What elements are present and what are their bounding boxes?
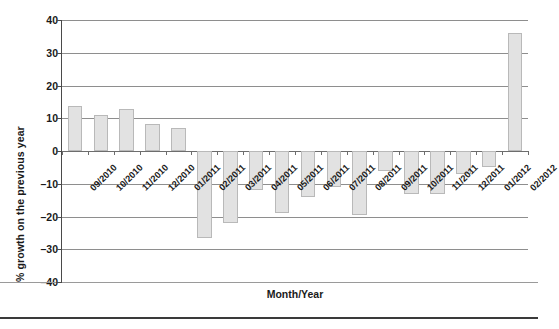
footer-divider-top: [0, 282, 538, 283]
x-axis-tickmark: [243, 151, 244, 155]
y-axis-tick-label: –20: [30, 211, 58, 223]
gridline: [62, 20, 528, 21]
bar: [171, 128, 185, 151]
y-axis-tickmark: [56, 53, 62, 54]
gridline: [62, 217, 528, 218]
y-axis-tick-label: 30: [30, 47, 58, 59]
x-axis-title: Month/Year: [62, 288, 528, 300]
x-axis-tickmark: [62, 151, 63, 155]
y-axis-tickmark: [56, 118, 62, 119]
bar: [119, 109, 133, 151]
y-axis-tick-label: –10: [30, 178, 58, 190]
x-axis-tickmark: [399, 151, 400, 155]
x-axis-tickmark: [502, 151, 503, 155]
bar: [508, 33, 522, 151]
gridline: [62, 53, 528, 54]
bar: [197, 151, 211, 238]
x-axis-tickmark: [528, 151, 529, 155]
y-axis-tickmark: [56, 249, 62, 250]
y-axis-tick-label: 0: [30, 145, 58, 157]
y-axis-tick-labels: 403020100–10–20–30–40: [14, 0, 58, 329]
gridline: [62, 86, 528, 87]
y-axis-tick-label: 10: [30, 112, 58, 124]
y-axis-tick-label: 20: [30, 80, 58, 92]
y-axis-tickmark: [56, 184, 62, 185]
footer-divider-bottom: [0, 317, 538, 319]
x-axis-tickmark: [373, 151, 374, 155]
y-axis-tickmark: [56, 217, 62, 218]
y-axis-tick-label: –30: [30, 243, 58, 255]
bar: [145, 124, 159, 151]
x-axis-tickmark: [114, 151, 115, 155]
x-axis-tickmark: [191, 151, 192, 155]
bar: [94, 115, 108, 151]
x-axis-tickmark: [140, 151, 141, 155]
x-axis-tickmark: [450, 151, 451, 155]
y-axis-tick-label: 40: [30, 14, 58, 26]
x-axis-tickmark: [166, 151, 167, 155]
gridline: [62, 249, 528, 250]
x-axis-tickmark: [424, 151, 425, 155]
x-axis-tick-label: 02/2012: [528, 162, 559, 193]
x-axis-tickmark: [88, 151, 89, 155]
x-axis-tickmark: [295, 151, 296, 155]
bar: [482, 151, 496, 167]
x-axis-tickmark: [217, 151, 218, 155]
y-axis-tickmark: [56, 20, 62, 21]
bar: [68, 106, 82, 151]
x-axis-tickmark: [347, 151, 348, 155]
y-axis-tickmark: [56, 86, 62, 87]
x-axis-tickmark: [476, 151, 477, 155]
y-axis-tickmark: [56, 282, 62, 283]
x-axis-tickmark: [321, 151, 322, 155]
x-axis-tickmark: [269, 151, 270, 155]
